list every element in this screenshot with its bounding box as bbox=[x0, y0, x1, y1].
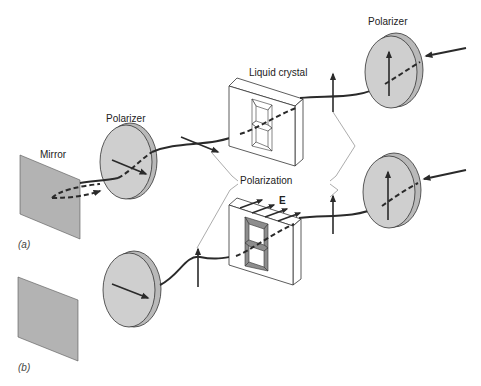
panel-b-label: (b) bbox=[18, 362, 30, 373]
polarization-label: Polarization bbox=[240, 175, 292, 186]
polarizer-left-b bbox=[103, 251, 161, 327]
incoming-light-b bbox=[424, 170, 466, 179]
liquid-crystal-label: Liquid crystal bbox=[249, 67, 307, 78]
polarizer-left-a bbox=[100, 123, 157, 199]
field-label: E bbox=[279, 195, 286, 206]
liquid-crystal-a bbox=[229, 78, 303, 166]
lcd-polarization-diagram: Mirror Polarizer bbox=[0, 0, 481, 386]
polarizer-right-a bbox=[365, 33, 423, 108]
liquid-crystal-b bbox=[229, 198, 301, 285]
mirror-label: Mirror bbox=[40, 149, 67, 160]
polarizer-left-label: Polarizer bbox=[106, 113, 146, 124]
mirror-b bbox=[18, 277, 78, 361]
incoming-light-a bbox=[426, 48, 466, 56]
polarizer-right-b bbox=[363, 153, 421, 228]
polarizer-right-label: Polarizer bbox=[368, 16, 408, 27]
panel-a-label: (a) bbox=[18, 239, 30, 250]
